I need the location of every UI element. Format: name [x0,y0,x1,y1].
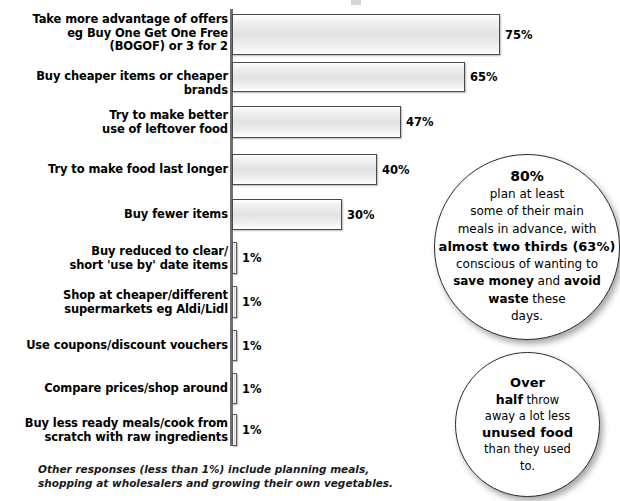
callout-emphasis-waste: waste [488,292,528,306]
bar-30 [232,199,342,230]
bar-container: 1% [232,286,262,318]
callout-line-mixed: half throw [496,392,559,409]
bar-1-ready-meals [232,414,237,446]
bar-label: Buy less ready meals/cook from scratch w… [3,417,228,444]
bar-label: Try to make food last longer [3,163,228,177]
callout-line: plan at least [490,186,565,204]
bar-value-label: 47% [406,115,434,129]
bar-label-line: Use coupons/discount vouchers [3,339,228,353]
callout-line: some of their main [470,203,584,221]
bar-value-label: 40% [382,163,410,177]
footnote-line: Other responses (less than 1%) include p… [38,462,368,476]
callout-tail: throw [523,393,559,407]
bar-1-compare-prices [232,373,237,404]
callout-line: than they used [484,441,571,458]
bar-40 [232,154,377,185]
callout-emphasis-save-money: save money [453,274,534,288]
bar-container: 1% [232,242,262,274]
callout-line: days. [511,308,543,326]
callout-waste-stat: Over half throw away a lot less unused f… [455,352,600,497]
bar-value-label: 75% [505,28,533,42]
bar-label-line: Buy cheaper items or cheaper brands [3,70,228,97]
bar-label-line: supermarkets eg Aldi/Lidl [3,303,228,317]
bar-label: Use coupons/discount vouchers [3,339,228,353]
bar-label: Compare prices/shop around [3,382,228,396]
table-row: Buy cheaper items or cheaper brands 65% [0,62,620,92]
bar-1-cheaper-supermarkets [232,286,237,318]
bar-75 [232,14,500,55]
bar-label-line: Buy reduced to clear/ [3,245,228,259]
bar-value-label: 30% [347,208,375,222]
table-row: Take more advantage of offers eg Buy One… [0,14,620,55]
chart-footnote: Other responses (less than 1%) include p… [38,462,368,490]
callout-planning-stat: 80% plan at least some of their main mea… [434,154,620,340]
bar-label-line: Try to make food last longer [3,163,228,177]
bar-label: Buy reduced to clear/ short 'use by' dat… [3,245,228,272]
bar-65 [232,62,465,92]
bar-container: 47% [232,106,434,138]
bar-1-coupons [232,330,237,361]
callout-emphasis-half: half [496,392,523,407]
callout-headline: Over [510,375,545,392]
callout-tail: these [529,292,566,306]
bar-value-label: 1% [242,251,262,265]
bar-value-label: 65% [470,70,498,84]
bar-label-line: use of leftover food [3,123,228,137]
callout-line-emphasis: unused food [482,425,573,442]
bar-label-line: Buy fewer items [3,208,228,222]
callout-conjunction: and [534,274,564,288]
bar-label: Buy cheaper items or cheaper brands [3,70,228,97]
bar-label: Buy fewer items [3,208,228,222]
bar-container: 1% [232,373,262,404]
bar-label-line: eg Buy One Get One Free [3,27,228,41]
bar-container: 75% [232,14,533,55]
bar-label: Shop at cheaper/different supermarkets e… [3,289,228,316]
bar-47 [232,106,401,138]
bar-value-label: 1% [242,423,262,437]
footnote-line: shopping at wholesalers and growing thei… [38,476,368,490]
callout-line: to. [520,458,535,475]
bar-label-line: Take more advantage of offers [3,13,228,27]
bar-value-label: 1% [242,382,262,396]
bar-label: Try to make better use of leftover food [3,109,228,136]
bar-label-line: (BOGOF) or 3 for 2 [3,40,228,54]
table-row: Try to make better use of leftover food … [0,106,620,138]
bar-label-line: Try to make better [3,109,228,123]
bar-container: 65% [232,62,498,92]
bar-label: Take more advantage of offers eg Buy One… [3,13,228,54]
callout-line-mixed: save money and avoid [453,273,601,291]
bar-value-label: 1% [242,339,262,353]
top-crop-artifact [351,0,361,5]
bar-container: 1% [232,330,262,361]
bar-label-line: Shop at cheaper/different [3,289,228,303]
bar-label-line: short 'use by' date items [3,259,228,273]
bar-label-line: Buy less ready meals/cook from [3,417,228,431]
callout-emphasis-avoid: avoid [564,274,601,288]
callout-line: away a lot less [485,408,570,425]
bar-container: 40% [232,154,410,185]
bar-label-line: Compare prices/shop around [3,382,228,396]
bar-value-label: 1% [242,295,262,309]
callout-line-mixed: waste these [488,291,565,309]
callout-headline: 80% [510,168,544,186]
bar-container: 30% [232,199,375,230]
bar-1-reduced-to-clear [232,242,237,274]
callout-line: conscious of wanting to [456,256,598,274]
bar-container: 1% [232,414,262,446]
callout-line-emphasis: almost two thirds (63%) [439,238,616,256]
bar-label-line: scratch with raw ingredients [3,431,228,445]
callout-line: meals in advance, with [458,221,597,239]
